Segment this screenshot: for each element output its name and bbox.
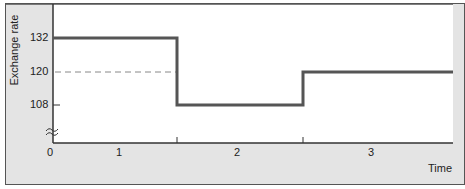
y-tick-label-132: 132 [30,31,48,43]
y-tick-label-108: 108 [30,98,48,110]
x-tick-label-0: 0 [47,146,53,158]
x-tick-label-2: 2 [234,146,240,158]
x-axis-label: Time [428,162,452,174]
y-tick-label-120: 120 [30,65,48,77]
y-axis-label: Exchange rate [8,15,20,86]
x-tick-label-1: 1 [116,146,122,158]
x-tick-label-3: 3 [368,146,374,158]
